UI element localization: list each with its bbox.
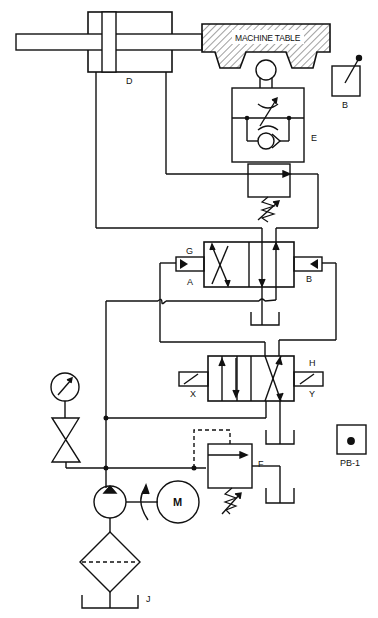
pressure-gauge xyxy=(51,373,79,418)
filter-j xyxy=(80,532,140,608)
relief-valve-f xyxy=(194,430,280,514)
motor-label: M xyxy=(173,496,182,508)
filter-label: J xyxy=(146,595,151,604)
solenoid-x-label: X xyxy=(190,390,196,399)
cylinder-label: D xyxy=(126,77,133,86)
limit-switch-b xyxy=(332,56,362,97)
relief-valve-label: F xyxy=(258,460,264,469)
cam-roller xyxy=(256,60,276,88)
pilot-a-label: A xyxy=(187,278,193,287)
sequence-valve xyxy=(166,164,318,228)
machine-table xyxy=(202,24,330,68)
cylinder-d xyxy=(16,12,202,228)
pilot-b-label: B xyxy=(306,275,312,284)
tank-g xyxy=(251,312,279,325)
push-button-label: PB-1 xyxy=(340,459,360,468)
flow-control-e xyxy=(232,88,304,162)
pump xyxy=(94,485,158,520)
shutoff-valve xyxy=(52,418,80,468)
solenoid-valve-h xyxy=(179,356,323,401)
machine-table-label: MACHINE TABLE xyxy=(235,33,300,43)
push-button-pb1 xyxy=(337,425,366,454)
hydraulic-circuit-diagram: D MACHINE TABLE B E G A B H X Y F PB-1 M… xyxy=(0,0,378,618)
limit-switch-label: B xyxy=(342,101,348,110)
solenoid-y-label: Y xyxy=(309,390,315,399)
pilot-valve-g xyxy=(176,242,322,287)
pilot-valve-label: G xyxy=(186,247,193,256)
solenoid-valve-label: H xyxy=(309,359,316,368)
flow-control-label: E xyxy=(311,134,317,143)
